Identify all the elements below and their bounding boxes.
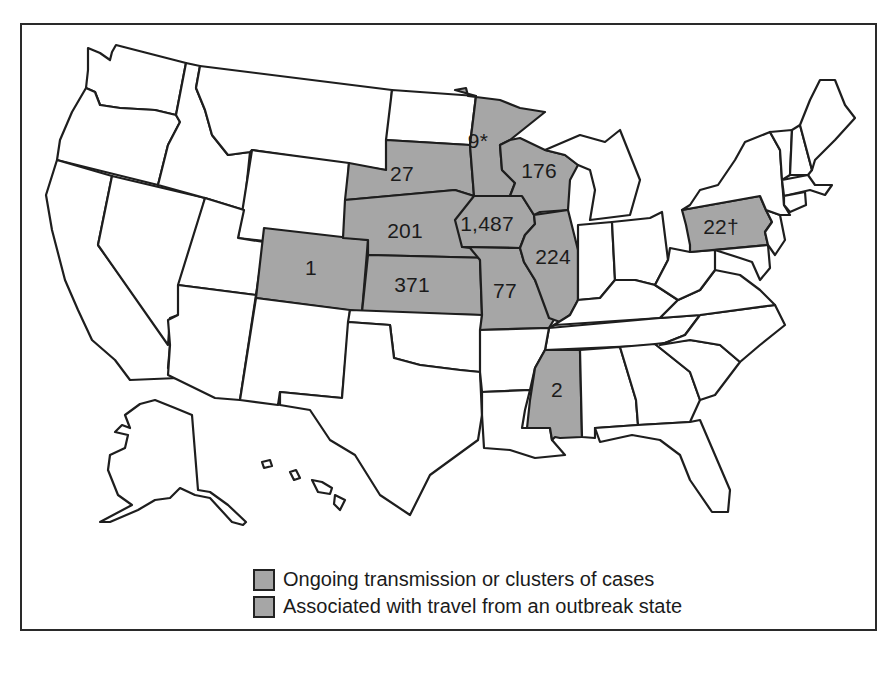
label-colorado: 1 <box>305 256 317 280</box>
label-nebraska: 201 <box>387 219 423 243</box>
legend-swatch <box>253 596 275 618</box>
state-alaska <box>100 400 246 525</box>
state-massachusetts <box>782 175 832 196</box>
state-hawaii-2 <box>290 470 300 480</box>
label-mississippi: 2 <box>551 378 563 402</box>
legend-swatch <box>253 569 275 591</box>
legend-item-travel: Associated with travel from an outbreak … <box>253 593 682 620</box>
legend-item-ongoing: Ongoing transmission or clusters of case… <box>253 566 682 593</box>
label-iowa: 1,487 <box>460 212 514 236</box>
state-new-mexico <box>240 298 350 405</box>
label-missouri: 77 <box>493 279 517 303</box>
label-south-dakota: 27 <box>390 162 414 186</box>
state-connecticut <box>784 192 806 212</box>
label-illinois: 224 <box>535 245 571 269</box>
state-florida <box>595 420 730 512</box>
label-pennsylvania: 22† <box>703 215 739 239</box>
label-minnesota: 9* <box>468 129 488 153</box>
label-wisconsin: 176 <box>521 159 557 183</box>
state-hawaii-3 <box>312 480 332 494</box>
legend-label: Associated with travel from an outbreak … <box>283 595 682 618</box>
state-hawaii-1 <box>262 460 272 468</box>
state-north-dakota <box>386 90 476 145</box>
legend: Ongoing transmission or clusters of case… <box>253 566 682 620</box>
state-hawaii-4 <box>334 495 345 510</box>
state-maine <box>800 80 855 170</box>
legend-label: Ongoing transmission or clusters of case… <box>283 568 654 591</box>
label-kansas: 371 <box>394 273 430 297</box>
